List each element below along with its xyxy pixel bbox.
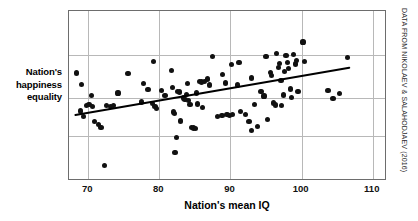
y-axis-label: Nation's happiness equality: [0, 66, 62, 104]
x-tick-label-100: 100: [293, 183, 309, 194]
x-tick-label-80: 80: [153, 183, 164, 194]
scatter-chart-figure: Nation's happiness equality 708090100110…: [0, 0, 418, 221]
y-axis-label-line-2: happiness: [0, 79, 62, 92]
plot-area: [68, 10, 386, 180]
y-axis-label-line-3: equality: [0, 91, 62, 104]
x-axis-label: Nation's mean IQ: [68, 199, 386, 211]
source-credit: DATA FROM NIKOLAEV & SALAHODJAEV (2016): [398, 8, 410, 208]
trend-line: [69, 11, 387, 181]
y-axis-label-line-1: Nation's: [0, 66, 62, 79]
x-tick-label-70: 70: [82, 183, 93, 194]
x-tick-label-110: 110: [364, 183, 379, 194]
plot-inner: [69, 11, 385, 179]
x-tick-label-90: 90: [224, 183, 235, 194]
